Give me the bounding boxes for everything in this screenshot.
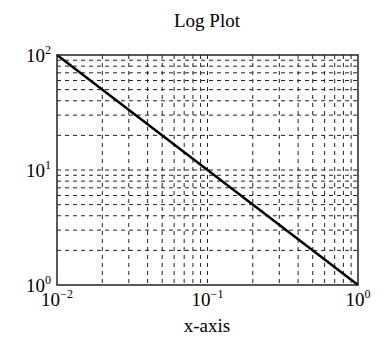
log-plot-chart: Log Plot 100101102 10−210−1100 x-axis <box>0 0 390 361</box>
chart-title: Log Plot <box>174 10 241 31</box>
y-axis-ticks: 100101102 <box>26 43 51 296</box>
y-tick-label: 101 <box>26 158 51 181</box>
y-tick-label: 102 <box>26 43 51 66</box>
x-axis-label: x-axis <box>184 315 230 336</box>
x-tick-label: 100 <box>346 287 371 310</box>
x-axis-ticks: 10−210−1100 <box>41 287 370 310</box>
x-tick-label: 10−2 <box>41 287 73 310</box>
x-tick-label: 10−1 <box>192 287 224 310</box>
